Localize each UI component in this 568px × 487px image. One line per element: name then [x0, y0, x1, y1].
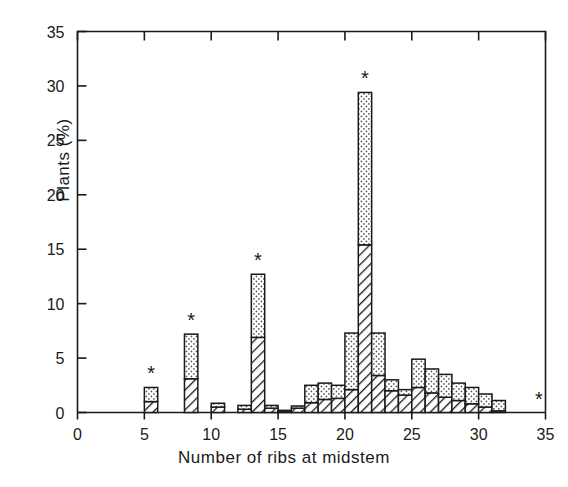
histogram-bar	[332, 385, 345, 412]
histogram-bar	[184, 334, 197, 412]
bar-segment-dotted	[479, 394, 492, 407]
bar-segment-dotted	[345, 333, 358, 390]
bar-segment-dotted	[184, 334, 197, 379]
x-axis-label: Number of ribs at midstem	[0, 448, 568, 468]
asterisk-marker-8: *	[187, 309, 195, 331]
histogram-bar	[358, 92, 371, 412]
plot-canvas: ***** 0510152025303505101520253035	[0, 0, 568, 487]
bar-segment-hatched	[398, 395, 411, 412]
histogram-bar	[385, 380, 398, 413]
y-tick-label: 0	[56, 405, 65, 422]
bar-segment-dotted	[318, 383, 331, 399]
bar-segment-dotted	[372, 333, 385, 375]
bar-segment-dotted	[439, 374, 452, 397]
histogram-bar	[211, 403, 224, 412]
bar-segment-dotted	[332, 385, 345, 398]
histogram-bar	[412, 359, 425, 412]
histogram-bar	[305, 385, 318, 412]
histogram-bar	[465, 387, 478, 412]
bar-segment-dotted	[291, 406, 304, 408]
histogram-bar	[452, 383, 465, 412]
bar-segment-dotted	[265, 405, 278, 408]
bar-segment-hatched	[372, 375, 385, 412]
y-tick-label: 5	[56, 350, 65, 367]
bar-segment-hatched	[251, 337, 264, 412]
histogram-bar	[291, 406, 304, 413]
bar-segment-dotted	[238, 405, 251, 409]
y-tick-label: 10	[47, 296, 65, 313]
bar-segment-dotted	[251, 274, 264, 337]
bars-layer	[144, 92, 505, 412]
bar-segment-hatched	[465, 404, 478, 413]
asterisk-marker-34: *	[535, 388, 543, 410]
y-tick-label: 35	[47, 24, 65, 41]
bar-segment-hatched	[439, 397, 452, 412]
bar-segment-hatched	[184, 379, 197, 413]
histogram-bar	[265, 405, 278, 412]
bar-segment-hatched	[318, 399, 331, 412]
bar-segment-dotted	[358, 92, 371, 244]
x-tick-label: 0	[73, 426, 82, 443]
histogram-bar	[318, 383, 331, 412]
bar-segment-dotted	[278, 410, 291, 411]
x-tick-label: 5	[140, 426, 149, 443]
histogram-bar	[479, 394, 492, 413]
asterisk-marker-5: *	[147, 362, 155, 384]
histogram-bar	[278, 410, 291, 412]
bar-segment-hatched	[332, 398, 345, 412]
x-tick-label: 30	[470, 426, 488, 443]
histogram-bar	[425, 369, 438, 413]
bar-segment-dotted	[412, 359, 425, 387]
bar-segment-dotted	[144, 387, 157, 401]
asterisk-marker-21: *	[361, 67, 369, 89]
bar-segment-hatched	[412, 387, 425, 412]
histogram-bar	[238, 405, 251, 412]
histogram-bar	[439, 374, 452, 412]
bar-segment-dotted	[211, 403, 224, 407]
bar-segment-dotted	[452, 383, 465, 400]
histogram-bar	[345, 333, 358, 412]
x-tick-label: 20	[336, 426, 354, 443]
x-tick-label: 35	[537, 426, 555, 443]
tick-labels-layer: 0510152025303505101520253035	[47, 24, 555, 443]
bar-segment-hatched	[358, 245, 371, 413]
bar-segment-dotted	[385, 380, 398, 391]
histogram-bar	[251, 274, 264, 412]
bar-segment-dotted	[425, 369, 438, 393]
histogram-bar	[398, 390, 411, 413]
bar-segment-hatched	[452, 401, 465, 413]
x-tick-label: 15	[269, 426, 287, 443]
bar-segment-hatched	[305, 403, 318, 413]
bar-segment-dotted	[492, 401, 505, 411]
x-tick-label: 10	[202, 426, 220, 443]
bar-segment-hatched	[144, 402, 157, 413]
bar-segment-dotted	[305, 385, 318, 402]
bar-segment-hatched	[425, 393, 438, 413]
bar-segment-hatched	[385, 391, 398, 413]
bar-segment-dotted	[398, 390, 411, 395]
histogram-bar	[144, 387, 157, 412]
axes-layer	[78, 32, 546, 420]
bar-segment-hatched	[211, 407, 224, 412]
asterisk-marker-13: *	[254, 249, 262, 271]
histogram-bar	[372, 333, 385, 412]
bar-segment-dotted	[465, 387, 478, 403]
histogram-figure: Plants (%) Number of ribs at midstem ***…	[0, 0, 568, 487]
y-tick-label: 15	[47, 241, 65, 258]
bar-segment-hatched	[479, 407, 492, 412]
x-tick-label: 25	[403, 426, 421, 443]
histogram-bar	[492, 401, 505, 413]
axis-frame	[78, 32, 546, 413]
y-axis-label: Plants (%)	[54, 90, 74, 230]
bar-segment-hatched	[345, 390, 358, 413]
